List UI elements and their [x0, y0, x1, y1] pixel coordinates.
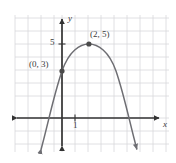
parabola-curve: [41, 44, 137, 149]
point-label-vertex: (2, 5): [90, 30, 110, 39]
point-label-y-intercept: (0, 3): [29, 60, 49, 69]
x-tick-label-1: 1: [73, 121, 78, 130]
graph-figure: y x 5 1 (0, 3) (2, 5): [0, 0, 176, 163]
point-vertex: [86, 41, 91, 46]
y-axis-label: y: [68, 14, 72, 23]
x-axis-label: x: [163, 120, 167, 129]
y-tick-label-5: 5: [50, 38, 55, 47]
coordinate-plane-svg: [0, 0, 176, 163]
point-y-intercept: [59, 68, 64, 73]
